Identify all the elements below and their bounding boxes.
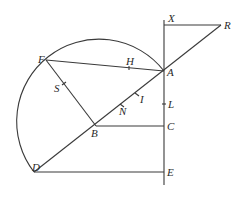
label-h: H (125, 55, 135, 67)
label-d: D (31, 161, 40, 173)
geometry-diagram: X R F H A S I N L B C D E (0, 0, 247, 197)
segment-fa (46, 60, 164, 71)
label-l: L (167, 98, 174, 110)
label-f: F (37, 53, 45, 65)
label-e: E (166, 166, 174, 178)
label-n: N (118, 105, 127, 117)
label-r: R (223, 19, 231, 31)
label-c: C (167, 120, 175, 132)
label-s: S (54, 82, 60, 94)
label-a: A (166, 66, 174, 78)
label-i: I (139, 93, 145, 105)
label-b: B (91, 127, 98, 139)
tick-i (135, 93, 139, 96)
label-x: X (167, 12, 176, 24)
segment-rd (34, 25, 221, 172)
